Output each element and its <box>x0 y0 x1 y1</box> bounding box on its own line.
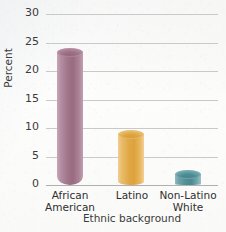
y-tick-label-25: 25 <box>25 36 39 47</box>
bar-latino <box>118 130 144 185</box>
y-tick-label-20: 20 <box>25 64 39 75</box>
y-tick-label-10: 10 <box>25 121 39 132</box>
y-tick-label-15: 15 <box>25 93 39 104</box>
bar-african-american <box>57 48 83 185</box>
y-tick-label-5: 5 <box>32 150 39 161</box>
bar-african-american-cap <box>57 48 83 57</box>
gridline-30: 30 <box>46 14 218 15</box>
x-tick-label-non-latino-white: Non-Latino White <box>151 189 225 214</box>
y-axis-title-text: Percent <box>2 38 14 98</box>
plot-area: 30 25 20 15 10 5 0 <box>46 14 218 185</box>
x-axis-title: Ethnic background <box>46 212 218 224</box>
y-axis-title: Percent <box>1 62 15 74</box>
bar-latino-cap <box>118 130 144 139</box>
y-tick-label-30: 30 <box>25 7 39 18</box>
y-tick-label-0: 0 <box>32 178 39 189</box>
chart-figure: Percent 30 25 20 15 10 5 0 <box>0 0 226 232</box>
gridline-0-baseline: 0 <box>46 185 218 186</box>
bar-latino-body <box>118 134 144 185</box>
bar-non-latino-white-cap <box>175 170 201 179</box>
bar-non-latino-white <box>175 170 201 185</box>
gridline-25: 25 <box>46 43 218 44</box>
bar-african-american-body <box>57 52 83 185</box>
